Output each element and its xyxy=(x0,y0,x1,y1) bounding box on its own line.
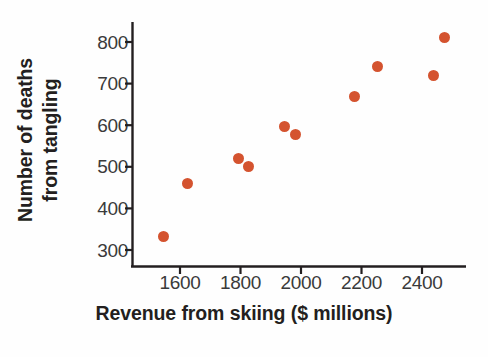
x-tick-label: 2000 xyxy=(280,272,321,294)
data-point xyxy=(279,121,290,132)
data-point xyxy=(372,61,383,72)
x-tick-label: 1800 xyxy=(220,272,261,294)
data-point xyxy=(158,231,169,242)
data-point xyxy=(428,70,439,81)
scatter-plot-figure: Number of deaths from tangling 300400500… xyxy=(0,0,488,357)
data-point xyxy=(349,91,360,102)
x-tick-label: 2400 xyxy=(401,272,442,294)
x-axis-title: Revenue from skiing ($ millions) xyxy=(0,302,488,325)
data-point xyxy=(290,129,301,140)
x-tick-label: 2200 xyxy=(341,272,382,294)
data-point xyxy=(182,178,193,189)
data-point xyxy=(439,32,450,43)
x-tick-label: 1600 xyxy=(159,272,200,294)
data-point xyxy=(243,161,254,172)
x-axis-tick-labels: 16001800200022002400 xyxy=(0,272,488,298)
